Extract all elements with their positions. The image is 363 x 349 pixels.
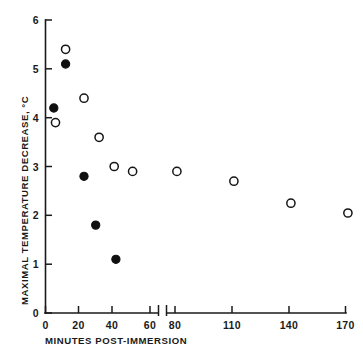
y-tick-label-3: 3 (33, 161, 39, 173)
scatter-plot-figure: 6 5 4 3 2 1 0 0 20 40 60 80 110 140 170 … (0, 0, 363, 349)
plot-canvas: 6 5 4 3 2 1 0 0 20 40 60 80 110 140 170 … (0, 0, 363, 349)
data-point-filled (50, 104, 58, 112)
x-axis-ticks (46, 306, 346, 313)
series-open-circles (51, 45, 352, 217)
x-axis-title: MINUTES POST-IMMERSION (45, 335, 187, 346)
y-tick-label-5: 5 (33, 63, 39, 75)
x-tick-label-170: 170 (336, 319, 355, 331)
data-point-open (287, 199, 295, 207)
data-point-open (62, 45, 70, 53)
x-tick-label-60: 60 (144, 319, 156, 331)
y-tick-label-0: 0 (33, 307, 39, 319)
y-tick-label-4: 4 (33, 112, 39, 124)
data-point-open (173, 167, 181, 175)
data-point-open (51, 119, 59, 127)
data-point-filled (112, 255, 120, 263)
x-tick-label-110: 110 (223, 319, 241, 331)
series-filled-circles (50, 60, 120, 264)
x-tick-label-80: 80 (169, 319, 181, 331)
data-point-filled (62, 60, 70, 68)
x-tick-label-40: 40 (106, 319, 118, 331)
y-tick-label-6: 6 (33, 14, 39, 26)
y-axis-title: MAXIMAL TEMPERATURE DECREASE, °C (19, 96, 30, 305)
x-tick-label-140: 140 (280, 319, 299, 331)
x-tick-label-0: 0 (42, 319, 48, 331)
y-tick-label-1: 1 (33, 258, 39, 270)
data-point-open (95, 133, 103, 141)
y-tick-label-2: 2 (33, 209, 39, 221)
data-point-open (129, 167, 137, 175)
data-point-open (80, 94, 88, 102)
data-point-filled (80, 172, 88, 180)
data-point-open (344, 209, 352, 217)
x-tick-label-20: 20 (72, 319, 84, 331)
data-point-filled (92, 221, 100, 229)
data-point-open (110, 162, 118, 170)
data-point-open (230, 177, 238, 185)
